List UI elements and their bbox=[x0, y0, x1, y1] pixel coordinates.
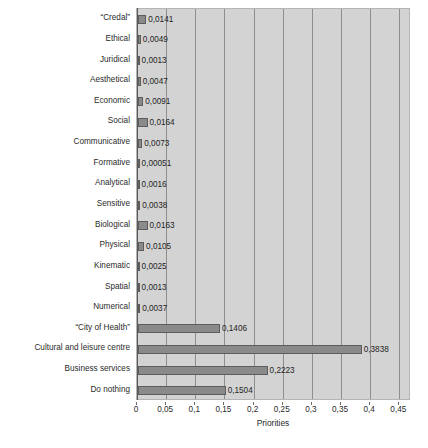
category-label: Business services bbox=[0, 364, 130, 374]
bar-value-label: 0,1406 bbox=[222, 324, 247, 333]
value-axis-ticks: 00,050,10,150,20,250,30,350,40,45 bbox=[136, 402, 410, 416]
category-label: Social bbox=[0, 116, 130, 126]
bar bbox=[138, 283, 140, 292]
tick-label: 0 bbox=[134, 405, 139, 414]
bar bbox=[138, 35, 141, 44]
tick-label: 0,05 bbox=[157, 405, 173, 414]
bar-value-label: 0,0016 bbox=[142, 180, 167, 189]
bar-value-label: 0,2223 bbox=[270, 366, 295, 375]
bar bbox=[138, 366, 268, 375]
category-label: Physical bbox=[0, 240, 130, 250]
bar bbox=[138, 118, 148, 127]
bar-value-label: 0,0013 bbox=[142, 56, 167, 65]
tick-label: 0,1 bbox=[189, 405, 200, 414]
bar-value-label: 0,1504 bbox=[228, 386, 253, 395]
category-label: Cultural and leisure centre bbox=[0, 343, 130, 353]
bar-value-label: 0,0091 bbox=[145, 97, 170, 106]
bar-value-label: 0,0047 bbox=[143, 77, 168, 86]
gridline bbox=[312, 9, 313, 399]
bar-value-label: 0,0038 bbox=[142, 201, 167, 210]
category-label: Do nothing bbox=[0, 385, 130, 395]
category-label: Analytical bbox=[0, 178, 130, 188]
bar-value-label: 0,0141 bbox=[148, 15, 173, 24]
gridline bbox=[283, 9, 284, 399]
gridline bbox=[341, 9, 342, 399]
bar-value-label: 0,0105 bbox=[146, 242, 171, 251]
bar bbox=[138, 139, 142, 148]
bar bbox=[138, 242, 144, 251]
category-label: Communicative bbox=[0, 137, 130, 147]
category-label: Aesthetical bbox=[0, 75, 130, 85]
bar-value-label: 0,0164 bbox=[150, 118, 175, 127]
bar bbox=[138, 180, 140, 189]
gridline bbox=[254, 9, 255, 399]
bar bbox=[138, 15, 146, 24]
bar-value-label: 0,0073 bbox=[144, 139, 169, 148]
category-label: Sensitive bbox=[0, 199, 130, 209]
tick-label: 0,3 bbox=[305, 405, 316, 414]
bar bbox=[138, 345, 362, 354]
bar bbox=[138, 304, 140, 313]
plot-area: 0,01410,00490,00130,00470,00910,01640,00… bbox=[136, 8, 410, 400]
tick-label: 0,25 bbox=[274, 405, 290, 414]
bar bbox=[138, 221, 148, 230]
x-axis-title: Priorities bbox=[136, 418, 410, 428]
category-label: Ethical bbox=[0, 34, 130, 44]
bar-value-label: 0,0037 bbox=[142, 304, 167, 313]
bar bbox=[138, 56, 140, 65]
category-label: Biological bbox=[0, 220, 130, 230]
gridline bbox=[224, 9, 225, 399]
bar bbox=[138, 262, 140, 271]
bar bbox=[138, 386, 226, 395]
category-label: Formative bbox=[0, 158, 130, 168]
tick-label: 0,4 bbox=[363, 405, 374, 414]
bar bbox=[138, 97, 143, 106]
category-label: Economic bbox=[0, 96, 130, 106]
gridline bbox=[370, 9, 371, 399]
category-label: Kinematic bbox=[0, 261, 130, 271]
tick-label: 0,45 bbox=[390, 405, 406, 414]
category-label: Juridical bbox=[0, 55, 130, 65]
bar bbox=[138, 201, 140, 210]
bar-chart: “Credal”EthicalJuridicalAestheticalEcono… bbox=[0, 0, 428, 448]
category-label: “City of Health” bbox=[0, 323, 130, 333]
bar bbox=[138, 324, 220, 333]
tick-label: 0,2 bbox=[247, 405, 258, 414]
bar-value-label: 0,0163 bbox=[150, 221, 175, 230]
bar-value-label: 0,00051 bbox=[142, 159, 172, 168]
bar-value-label: 0,3838 bbox=[364, 345, 389, 354]
category-label: Numerical bbox=[0, 302, 130, 312]
bar-value-label: 0,0025 bbox=[142, 262, 167, 271]
tick-label: 0,15 bbox=[215, 405, 231, 414]
bar bbox=[138, 77, 141, 86]
bar-value-label: 0,0013 bbox=[142, 283, 167, 292]
category-label: Spatial bbox=[0, 282, 130, 292]
bar bbox=[138, 159, 140, 168]
gridline bbox=[195, 9, 196, 399]
tick-label: 0,35 bbox=[332, 405, 348, 414]
category-label: “Credal” bbox=[0, 13, 130, 23]
category-axis-labels: “Credal”EthicalJuridicalAestheticalEcono… bbox=[0, 8, 133, 400]
gridline bbox=[399, 9, 400, 399]
bar-value-label: 0,0049 bbox=[143, 35, 168, 44]
